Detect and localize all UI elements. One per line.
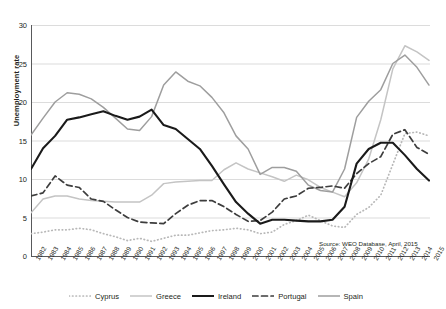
legend-swatch-ireland-icon — [192, 292, 214, 300]
x-tick-2015: 2015 — [432, 245, 445, 261]
legend-swatch-greece-icon — [130, 292, 152, 300]
legend-item-cyprus[interactable]: Cyprus — [69, 292, 119, 301]
y-tick-20: 20 — [5, 98, 27, 107]
legend-item-spain[interactable]: Spain — [318, 292, 363, 301]
legend-item-portugal[interactable]: Portugal — [252, 292, 306, 301]
y-tick-0: 0 — [5, 252, 27, 261]
x-axis-tick-labels: 1982198319841985198619871988198919901991… — [31, 258, 430, 288]
chart-legend: CyprusGreeceIrelandPortugalSpain — [0, 288, 432, 304]
legend-swatch-spain-icon — [318, 292, 340, 300]
y-tick-30: 30 — [5, 21, 27, 30]
plot-area — [31, 25, 430, 256]
y-tick-10: 10 — [5, 175, 27, 184]
legend-label-ireland: Ireland — [218, 292, 241, 301]
y-tick-25: 25 — [5, 59, 27, 68]
chart-canvas — [31, 25, 430, 257]
legend-swatch-cyprus-icon — [69, 292, 91, 300]
legend-label-spain: Spain — [344, 292, 363, 301]
legend-swatch-portugal-icon — [252, 292, 274, 300]
legend-item-greece[interactable]: Greece — [130, 292, 181, 301]
y-tick-15: 15 — [5, 136, 27, 145]
series-line-spain — [31, 55, 429, 192]
y-axis-tick-labels: 051015202530 — [3, 0, 27, 309]
legend-item-ireland[interactable]: Ireland — [192, 292, 241, 301]
legend-label-cyprus: Cyprus — [95, 292, 119, 301]
legend-label-greece: Greece — [156, 292, 181, 301]
series-line-portugal — [31, 130, 429, 224]
series-line-greece — [31, 46, 429, 213]
source-note: Source: WEO Database, April, 2015 — [319, 240, 418, 247]
legend-label-portugal: Portugal — [278, 292, 306, 301]
y-tick-5: 5 — [5, 213, 27, 222]
